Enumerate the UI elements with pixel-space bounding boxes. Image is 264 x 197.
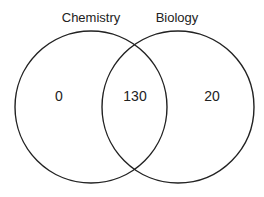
biology-circle (102, 31, 254, 183)
chemistry-circle (15, 31, 167, 183)
chemistry-only-value: 0 (55, 89, 63, 103)
chemistry-label: Chemistry (62, 11, 121, 25)
intersection-value: 130 (123, 89, 146, 103)
biology-only-value: 20 (204, 89, 220, 103)
biology-label: Biology (156, 11, 199, 25)
